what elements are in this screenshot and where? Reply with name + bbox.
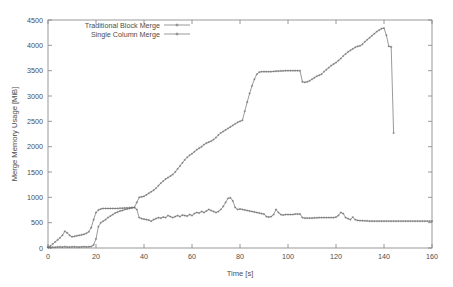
data-point xyxy=(105,207,107,209)
y-tick-label: 3000 xyxy=(27,92,43,101)
data-point xyxy=(275,70,277,72)
data-point xyxy=(239,120,241,122)
data-point xyxy=(277,70,279,72)
data-point xyxy=(73,246,75,248)
data-point xyxy=(253,78,255,80)
data-point xyxy=(285,70,287,72)
data-point xyxy=(397,220,399,222)
data-point xyxy=(390,46,392,48)
data-point xyxy=(265,71,267,73)
data-point xyxy=(249,92,251,94)
x-axis-title: Time [s] xyxy=(227,269,254,278)
data-point xyxy=(155,218,157,220)
data-point xyxy=(376,220,378,222)
chart-container: 0500100015002000250030003500400045000204… xyxy=(0,0,453,287)
data-point xyxy=(273,70,275,72)
data-point xyxy=(107,207,109,209)
series-markers-1 xyxy=(47,197,433,248)
data-point xyxy=(157,217,159,219)
data-point xyxy=(119,210,121,212)
data-point xyxy=(383,27,385,29)
data-point xyxy=(148,219,150,221)
data-point xyxy=(83,233,85,235)
data-point xyxy=(210,209,212,211)
data-point xyxy=(297,70,299,72)
data-point xyxy=(313,217,315,219)
data-point xyxy=(78,234,80,236)
data-point xyxy=(141,196,143,198)
data-point xyxy=(304,81,306,83)
data-point xyxy=(417,220,419,222)
data-point xyxy=(253,211,255,213)
data-point xyxy=(328,217,330,219)
data-point xyxy=(280,70,282,72)
data-point xyxy=(323,217,325,219)
data-point xyxy=(285,213,287,215)
data-point xyxy=(117,211,119,213)
data-point xyxy=(393,132,395,134)
y-tick-label: 1500 xyxy=(27,168,43,177)
data-point xyxy=(409,220,411,222)
data-point xyxy=(318,74,320,76)
data-point xyxy=(294,70,296,72)
data-point xyxy=(347,218,349,220)
data-point xyxy=(73,235,75,237)
data-point xyxy=(109,207,111,209)
data-point xyxy=(162,216,164,218)
data-point xyxy=(292,70,294,72)
data-point xyxy=(330,217,332,219)
data-point xyxy=(261,212,263,214)
y-tick-label: 0 xyxy=(39,244,43,253)
data-point xyxy=(318,217,320,219)
series-line-0 xyxy=(48,28,394,247)
data-point xyxy=(251,85,253,87)
data-point xyxy=(208,141,210,143)
data-point xyxy=(143,218,145,220)
data-point xyxy=(93,219,95,221)
data-point xyxy=(378,220,380,222)
data-point xyxy=(241,119,243,121)
data-point xyxy=(388,220,390,222)
x-tick-label: 20 xyxy=(92,252,100,261)
data-point xyxy=(213,210,215,212)
data-point xyxy=(419,220,421,222)
data-point xyxy=(136,201,138,203)
y-tick-label: 1000 xyxy=(27,193,43,202)
data-point xyxy=(421,220,423,222)
data-point xyxy=(76,235,78,237)
data-point xyxy=(138,196,140,198)
data-point xyxy=(294,213,296,215)
data-point xyxy=(306,217,308,219)
data-point xyxy=(145,219,147,221)
data-point xyxy=(388,45,390,47)
data-point xyxy=(385,220,387,222)
data-point xyxy=(383,220,385,222)
data-point xyxy=(381,220,383,222)
data-point xyxy=(246,101,248,103)
data-point xyxy=(311,217,313,219)
data-point xyxy=(102,207,104,209)
data-point xyxy=(369,220,371,222)
data-point xyxy=(95,238,97,240)
y-tick-label: 2000 xyxy=(27,142,43,151)
data-point xyxy=(299,70,301,72)
data-point xyxy=(371,220,373,222)
x-tick-label: 120 xyxy=(330,252,342,261)
data-point xyxy=(141,218,143,220)
legend-label-1: Single Column Merge xyxy=(91,30,160,39)
data-point xyxy=(282,214,284,216)
y-tick-label: 500 xyxy=(31,218,43,227)
x-tick-label: 100 xyxy=(282,252,294,261)
data-point xyxy=(325,217,327,219)
data-point xyxy=(114,207,116,209)
data-point xyxy=(393,220,395,222)
data-point xyxy=(239,208,241,210)
data-point xyxy=(407,220,409,222)
data-point xyxy=(297,213,299,215)
data-point xyxy=(282,70,284,72)
data-point xyxy=(121,209,123,211)
y-tick-label: 2500 xyxy=(27,117,43,126)
data-point xyxy=(81,234,83,236)
data-point xyxy=(256,211,258,213)
x-tick-label: 0 xyxy=(46,252,50,261)
